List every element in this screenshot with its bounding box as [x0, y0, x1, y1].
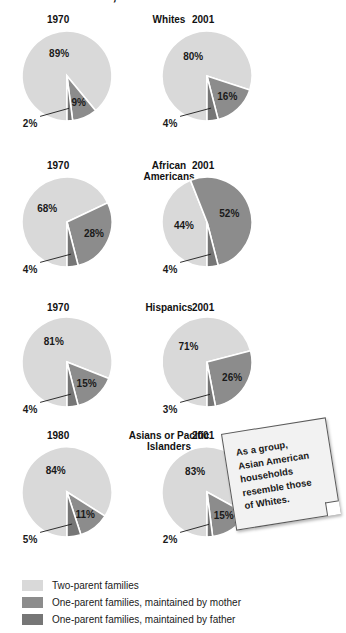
slice-value-label: 16%: [217, 91, 237, 102]
slice-value-label: 15%: [214, 510, 234, 521]
slice-value-label: 81%: [44, 336, 64, 347]
slice-value-label: 4%: [163, 264, 178, 275]
slice-value-label: 2%: [23, 118, 38, 129]
legend-swatch-two-parent: [22, 580, 43, 591]
slice-value-label: 26%: [222, 372, 242, 383]
slice-value-label: 89%: [49, 48, 69, 59]
slice-value-label: 9%: [72, 97, 87, 108]
slice-value-label: 80%: [183, 51, 203, 62]
pie-chart-african-americans-2001: 44%52%4%: [128, 143, 286, 301]
pie-chart-asians-or-pacific-islanders-1980: 84%11%5%: [0, 413, 146, 571]
legend-label: Two-parent families: [52, 580, 139, 591]
slice-value-label: 4%: [23, 264, 38, 275]
pie-chart-african-americans-1970: 68%28%4%: [0, 143, 146, 301]
pie-chart-figure: United States, 1970-2001 19702001Whites8…: [0, 0, 346, 633]
legend-item: One-parent families, maintained by mothe…: [22, 595, 241, 610]
slice-value-label: 52%: [219, 208, 239, 219]
slice-value-label: 68%: [37, 203, 57, 214]
pie-chart-whites-2001: 80%16%4%: [128, 0, 286, 155]
legend-swatch-father: [22, 614, 43, 625]
slice-value-label: 84%: [46, 465, 66, 476]
legend-swatch-mother: [22, 597, 43, 608]
slice-value-label: 15%: [77, 378, 97, 389]
callout-note: As a group, Asian American households re…: [221, 417, 341, 530]
slice-value-label: 4%: [163, 118, 178, 129]
slice-value-label: 71%: [178, 341, 198, 352]
chart-legend: Two-parent familiesOne-parent families, …: [22, 578, 241, 629]
slice-value-label: 2%: [163, 534, 178, 545]
callout-note-text: As a group, Asian American households re…: [222, 418, 337, 514]
slice-value-label: 5%: [23, 534, 38, 545]
legend-item: One-parent families, maintained by fathe…: [22, 612, 241, 627]
legend-item: Two-parent families: [22, 578, 241, 593]
slice-value-label: 11%: [75, 509, 95, 520]
legend-label: One-parent families, maintained by fathe…: [52, 614, 235, 625]
slice-value-label: 83%: [185, 466, 205, 477]
slice-value-label: 28%: [84, 228, 104, 239]
callout-fold-corner: [325, 500, 341, 516]
legend-label: One-parent families, maintained by mothe…: [52, 597, 241, 608]
slice-value-label: 44%: [174, 220, 194, 231]
pie-chart-whites-1970: 89%9%2%: [0, 0, 146, 155]
